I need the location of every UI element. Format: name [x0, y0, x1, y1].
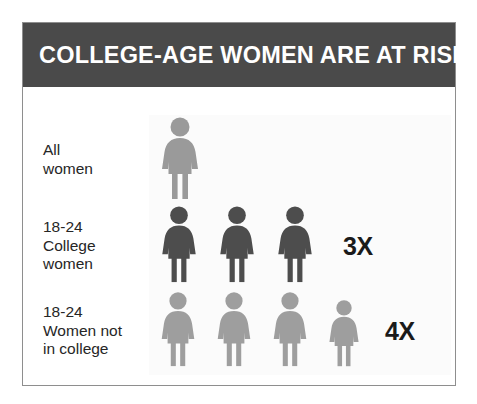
row-label-line: All — [43, 141, 149, 160]
woman-figure-icon — [269, 291, 311, 371]
row-label-line: women — [43, 160, 149, 179]
title-band: COLLEGE-AGE WOMEN ARE AT RISK — [23, 23, 455, 87]
row-label-line: College — [43, 237, 149, 256]
row-label-line: women — [43, 255, 149, 274]
figure-group-all-women — [149, 116, 203, 204]
woman-figure-icon — [157, 116, 203, 204]
chart-row-all-women: All women — [23, 115, 455, 205]
figure-group-women-not-in-college — [149, 291, 363, 371]
woman-figure-icon — [213, 291, 255, 371]
woman-figure-icon — [157, 291, 199, 371]
woman-figure-icon — [157, 205, 201, 287]
woman-figure-icon — [273, 205, 317, 287]
row-label-line: Women not — [43, 322, 149, 341]
infographic-card: COLLEGE-AGE WOMEN ARE AT RISK All women — [22, 22, 456, 386]
figure-group-college-women — [149, 205, 317, 287]
row-label-all-women: All women — [23, 141, 149, 179]
row-label-college-women: 18-24 College women — [23, 218, 149, 275]
chart-row-college-women: 18-24 College women — [23, 205, 455, 287]
multiplier-label-women-not-in-college: 4X — [385, 317, 415, 346]
row-label-line: 18-24 — [43, 303, 149, 322]
pictogram-chart: All women 18-24 College w — [23, 87, 455, 386]
row-label-women-not-in-college: 18-24 Women not in college — [23, 303, 149, 360]
page-title: COLLEGE-AGE WOMEN ARE AT RISK — [23, 42, 470, 69]
woman-figure-icon — [325, 299, 363, 371]
multiplier-label-college-women: 3X — [343, 232, 373, 261]
woman-figure-icon — [215, 205, 259, 287]
chart-row-women-not-in-college: 18-24 Women not in college — [23, 287, 455, 375]
row-label-line: 18-24 — [43, 218, 149, 237]
row-label-line: in college — [43, 340, 149, 359]
